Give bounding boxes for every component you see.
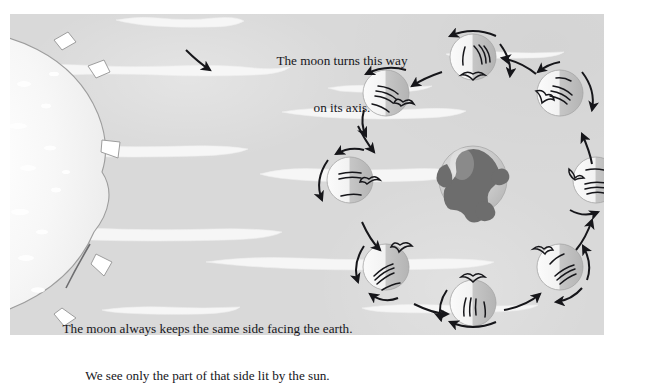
rotation-arrow: [440, 290, 447, 320]
caption-bottom-line2: We see only the part of that side lit by…: [60, 368, 355, 384]
rotation-arrow: [583, 246, 589, 280]
moon-position-4: [533, 244, 589, 302]
caption-leader-line: [66, 244, 90, 288]
moon-position-1: [450, 31, 510, 80]
rotation-arrow: [370, 294, 398, 300]
rotation-arrow: [336, 149, 364, 154]
caption-bottom: The moon always keeps the same side faci…: [60, 290, 355, 387]
caption-pointer-arrow: [186, 50, 210, 70]
rotation-arrow: [570, 210, 598, 215]
caption-top: The moon turns this way on its axis.: [252, 22, 432, 147]
earth: [437, 146, 510, 223]
moon-position-2: [536, 62, 593, 116]
moon-position-6: [356, 243, 412, 301]
moon-position-5: [440, 274, 496, 327]
rotation-arrow: [582, 72, 593, 110]
caption-top-line2: on its axis.: [252, 100, 432, 116]
caption-bottom-line1: The moon always keeps the same side faci…: [60, 321, 355, 337]
moon-position-3: [569, 157, 604, 215]
caption-top-line1: The moon turns this way: [252, 53, 432, 69]
moon-position-7: [319, 149, 380, 203]
